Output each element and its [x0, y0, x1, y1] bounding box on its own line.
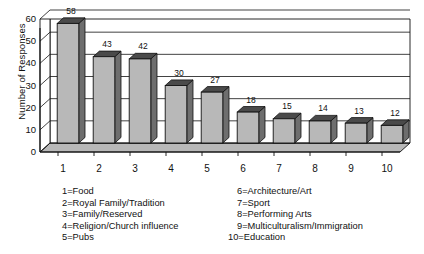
- bar-value-label: 12: [382, 109, 408, 118]
- legend-item: 5=Pubs: [62, 232, 179, 244]
- bar-value-label: 18: [238, 96, 264, 105]
- x-axis-tick-4: 4: [156, 163, 186, 175]
- legend-item: 2=Royal Family/Tradition: [62, 198, 179, 210]
- x-axis-tick-3: 3: [120, 163, 150, 175]
- y-axis-tick-30: 30: [16, 81, 36, 90]
- legend-item: 7=Sport: [237, 198, 363, 210]
- legend-column-left: 1=Food2=Royal Family/Tradition3=Family/R…: [62, 186, 179, 244]
- x-axis-tick-2: 2: [84, 163, 114, 175]
- bar-column: [273, 113, 301, 143]
- bar-column: [201, 87, 229, 143]
- bar-column: [93, 51, 121, 143]
- bar-value-label: 43: [94, 40, 120, 49]
- bar-value-label: 15: [274, 102, 300, 111]
- legend: 1=Food2=Royal Family/Tradition3=Family/R…: [0, 186, 424, 254]
- x-axis-tick-1: 1: [48, 163, 78, 175]
- legend-item: 9=Multiculturalism/Immigration: [237, 221, 363, 233]
- bar-value-label: 30: [166, 69, 192, 78]
- bar-value-label: 14: [310, 104, 336, 113]
- y-axis-tick-0: 0: [16, 147, 36, 156]
- x-axis-tick-labels: 12345678910: [38, 161, 414, 177]
- y-axis-tick-40: 40: [16, 58, 36, 67]
- x-axis-tick-8: 8: [300, 163, 330, 175]
- legend-item: 6=Architecture/Art: [237, 186, 363, 198]
- legend-column-right: 6=Architecture/Art7=Sport8=Performing Ar…: [237, 186, 363, 244]
- bar-column: [381, 120, 409, 143]
- bar-column: [309, 115, 337, 143]
- x-axis-tick-6: 6: [228, 163, 258, 175]
- bar-value-label: 42: [130, 42, 156, 51]
- y-axis-tick-10: 10: [16, 125, 36, 134]
- bar-value-label: 27: [202, 76, 228, 85]
- legend-item: 4=Religion/Church influence: [62, 221, 179, 233]
- bar-column: [57, 18, 85, 143]
- x-axis-tick-5: 5: [192, 163, 222, 175]
- legend-item: 3=Family/Reserved: [62, 209, 179, 221]
- bar-value-label: 58: [58, 7, 84, 16]
- legend-item: 10=Education: [228, 232, 354, 244]
- bar-column: [165, 80, 193, 143]
- bar-column: [345, 118, 373, 143]
- x-axis-tick-7: 7: [264, 163, 294, 175]
- x-axis-tick-10: 10: [372, 163, 402, 175]
- bar-value-label: 13: [346, 107, 372, 116]
- x-axis-tick-9: 9: [336, 163, 366, 175]
- bar-column: [237, 107, 265, 143]
- y-axis-tick-50: 50: [16, 36, 36, 45]
- bar-column: [129, 53, 157, 143]
- legend-item: 1=Food: [62, 186, 179, 198]
- y-axis-tick-60: 60: [16, 14, 36, 23]
- legend-item: 8=Performing Arts: [237, 209, 363, 221]
- chart-figure: Number of Responses 6050403020100 584342…: [0, 0, 424, 254]
- y-axis-tick-20: 20: [16, 103, 36, 112]
